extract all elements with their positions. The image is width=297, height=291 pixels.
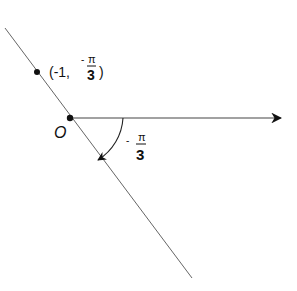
point-label-open: (-1, xyxy=(49,64,70,80)
angle-label-numerator: π xyxy=(138,131,146,143)
angle-label-sign: - xyxy=(126,135,129,146)
point-label-numerator: π xyxy=(88,53,96,65)
point-label-close: ) xyxy=(99,64,104,80)
angle-label: - π 3 xyxy=(126,131,146,163)
plotted-point xyxy=(34,69,40,75)
origin-label: O xyxy=(54,124,66,141)
point-label-denominator: 3 xyxy=(87,67,95,83)
angle-label-denominator: 3 xyxy=(136,146,144,163)
point-coordinate-label: (-1, - π 3 ) xyxy=(49,53,104,83)
origin-point xyxy=(67,115,73,121)
point-label-sign: - xyxy=(81,54,84,65)
angle-arc-arrow xyxy=(98,118,123,160)
polar-diagram: O (-1, - π 3 ) - π 3 xyxy=(0,0,297,291)
